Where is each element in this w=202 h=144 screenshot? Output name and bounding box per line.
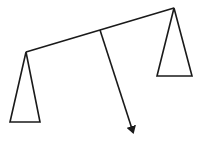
balance-diagram	[0, 0, 202, 144]
right-pan	[157, 8, 192, 76]
left-pan	[10, 52, 40, 122]
force-arrow	[100, 30, 133, 132]
